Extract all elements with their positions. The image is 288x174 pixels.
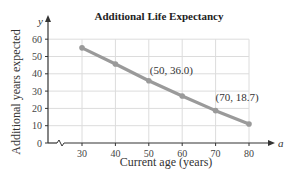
y-tick-label: 0 (37, 138, 42, 149)
data-line (82, 48, 249, 124)
point-annotation: (70, 18.7) (216, 91, 259, 104)
data-point (179, 93, 185, 99)
x-variable-label: a (278, 137, 284, 149)
life-expectancy-chart: Additional Life Expectancy 0102030405060… (0, 0, 288, 174)
axis-break-icon (57, 140, 64, 146)
y-tick-label: 60 (32, 34, 42, 45)
y-tick-label: 20 (32, 103, 42, 114)
axes (45, 15, 275, 146)
y-tick-labels: 0102030405060 (32, 34, 42, 149)
y-tick-label: 10 (32, 120, 42, 131)
data-point (79, 45, 85, 51)
x-tick-label: 30 (77, 148, 87, 159)
data-point (113, 61, 119, 67)
data-point (146, 78, 152, 84)
y-tick-label: 30 (32, 86, 42, 97)
data-point (213, 108, 219, 114)
point-annotation: (50, 36.0) (150, 64, 193, 77)
annotations: (50, 36.0)(70, 18.7) (150, 64, 259, 104)
x-axis-arrow-icon (268, 140, 275, 146)
y-axis-title: Additional years expected (9, 29, 23, 154)
chart-title: Additional Life Expectancy (95, 10, 224, 22)
y-variable-label: y (37, 15, 43, 27)
x-axis-title: Current age (years) (120, 155, 213, 169)
x-tick-label: 80 (244, 148, 254, 159)
y-axis-arrow-icon (45, 15, 51, 22)
y-tick-label: 50 (32, 51, 42, 62)
y-tick-label: 40 (32, 68, 42, 79)
data-point (246, 121, 252, 127)
